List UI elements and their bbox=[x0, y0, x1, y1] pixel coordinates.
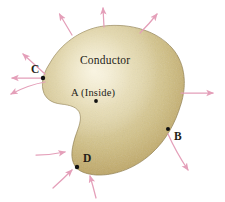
arrow-top-left-icon bbox=[60, 14, 73, 35]
conductor-label: Conductor bbox=[80, 55, 130, 67]
point-dot-b bbox=[166, 127, 170, 131]
arrow-into-d-left-icon bbox=[36, 152, 65, 155]
arrow-into-d-lower-left-icon bbox=[53, 170, 72, 188]
point-a-label: A (Inside) bbox=[71, 88, 115, 99]
figure-canvas bbox=[0, 0, 225, 202]
arrow-lower-left-c-icon bbox=[11, 82, 45, 94]
point-b-label: B bbox=[174, 131, 182, 143]
conductor-field-figure: Conductor A (Inside) B C D bbox=[0, 0, 225, 202]
arrow-top-right-icon bbox=[140, 14, 157, 33]
point-dot-a bbox=[94, 99, 98, 103]
point-dot-c bbox=[41, 76, 45, 80]
point-c-label: C bbox=[31, 64, 40, 76]
arrow-top-center-icon bbox=[103, 8, 104, 27]
arrow-into-d-below-icon bbox=[90, 176, 96, 198]
point-dot-d bbox=[75, 165, 79, 169]
point-d-label: D bbox=[83, 153, 92, 165]
